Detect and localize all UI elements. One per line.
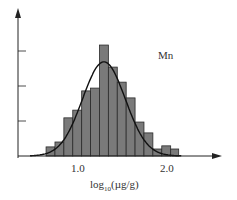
histogram-bar bbox=[91, 88, 100, 156]
x-axis-label-sub: 10 bbox=[104, 185, 111, 193]
histogram-bar bbox=[117, 82, 126, 156]
histogram-bars bbox=[46, 45, 179, 156]
y-axis-arrow-icon bbox=[15, 8, 21, 18]
x-axis-arrow-icon bbox=[212, 153, 222, 159]
x-tick-label-1: 1.0 bbox=[71, 162, 85, 174]
series-annotation: Mn bbox=[158, 49, 173, 61]
histogram-bar bbox=[108, 67, 117, 156]
x-axis-label: log10(µg/g) bbox=[90, 178, 139, 193]
histogram-bar bbox=[82, 91, 91, 156]
x-axis-label-rest: (µg/g) bbox=[111, 178, 139, 190]
x-tick-label-2: 2.0 bbox=[160, 162, 174, 174]
x-axis-label-base: log bbox=[90, 178, 104, 190]
histogram-chart bbox=[0, 0, 237, 200]
histogram-bar bbox=[73, 110, 82, 156]
y-ticks bbox=[18, 51, 26, 121]
